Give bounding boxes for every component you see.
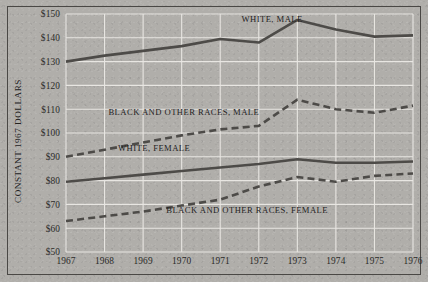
series-inline-label: BLACK AND OTHER RACES, MALE — [108, 107, 259, 117]
y-axis-tick-label: $90 — [46, 152, 61, 162]
series-inline-label: WHITE, FEMALE — [118, 143, 190, 153]
x-axis-tick-label: 1973 — [288, 256, 307, 266]
y-axis-tick-label: $70 — [46, 200, 61, 210]
line-chart: $150$140$130$120$110$100$90$80$70$60$50 … — [0, 0, 428, 282]
y-axis-tick-labels: $150$140$130$120$110$100$90$80$70$60$50 — [41, 9, 60, 257]
y-axis-tick-label: $100 — [41, 128, 60, 138]
series-lines-group — [66, 20, 413, 221]
series-inline-labels: WHITE, MALEBLACK AND OTHER RACES, MALEWH… — [108, 14, 328, 214]
series-line — [66, 159, 413, 182]
chart-page: $150$140$130$120$110$100$90$80$70$60$50 … — [0, 0, 428, 282]
x-axis-tick-label: 1970 — [172, 256, 191, 266]
y-axis-tick-label: $120 — [41, 81, 60, 91]
x-axis-tick-label: 1976 — [403, 256, 422, 266]
y-axis-tick-label: $130 — [41, 57, 60, 67]
x-axis-tick-label: 1969 — [134, 256, 153, 266]
x-axis-tick-label: 1975 — [365, 256, 384, 266]
y-axis-tick-label: $80 — [46, 176, 61, 186]
y-axis-title: CONSTANT 1967 DOLLARS — [13, 79, 23, 203]
y-axis-tick-label: $140 — [41, 33, 60, 43]
x-axis-tick-label: 1967 — [56, 256, 75, 266]
gridlines-group — [66, 14, 413, 252]
series-inline-label: WHITE, MALE — [241, 14, 302, 24]
x-axis-tick-labels: 1967196819691970197119721973197419751976 — [56, 256, 422, 266]
y-axis-tick-label: $110 — [41, 105, 60, 115]
x-axis-tick-label: 1972 — [249, 256, 268, 266]
x-axis-tick-label: 1971 — [211, 256, 230, 266]
y-axis-tick-label: $150 — [41, 9, 60, 19]
series-inline-label: BLACK AND OTHER RACES, FEMALE — [166, 205, 328, 215]
x-axis-tick-label: 1974 — [326, 256, 345, 266]
series-line — [66, 20, 413, 62]
y-axis-tick-label: $60 — [46, 224, 61, 234]
x-axis-tick-label: 1968 — [95, 256, 114, 266]
